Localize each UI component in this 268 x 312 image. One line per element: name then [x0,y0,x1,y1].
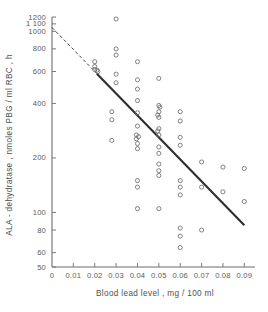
x-tick-label: 0.05 [151,271,167,280]
y-tick-label: 1200 [28,13,46,22]
data-point [135,147,139,151]
data-point [135,207,139,211]
data-point [114,72,118,76]
data-point [135,185,139,189]
data-point [114,81,118,85]
x-tick-label: 0.03 [108,271,124,280]
data-point [157,207,161,211]
x-tick-label: 0.01 [66,271,82,280]
data-point [135,124,139,128]
data-point [135,87,139,91]
regression-line-fitted [97,74,244,226]
data-point [93,60,97,64]
y-tick-label: 800 [33,44,46,53]
data-point [135,78,139,82]
x-tick-label: 0.07 [194,271,210,280]
y-tick-label: 100 [33,208,46,217]
y-tick-label: 80 [37,226,46,235]
axes [52,17,255,267]
y-tick-label: 200 [33,153,46,162]
y-tick-label: 400 [33,99,46,108]
data-point [242,199,246,203]
data-point [114,53,118,57]
x-tick-label: 0.04 [130,271,146,280]
data-point [135,142,139,146]
x-tick-label: 0.06 [172,271,188,280]
data-point [110,118,114,122]
y-tick-label: 50 [37,263,46,272]
x-tick-label: 0 [50,271,54,280]
scatter-plot: 50608010020040060080010001 1001200 00.01… [0,0,268,312]
x-axis-ticks: 00.010.020.030.040.050.060.070.080.09 [50,263,252,280]
x-tick-label: 0.09 [237,271,253,280]
data-point [157,151,161,155]
data-point [135,60,139,64]
data-point [135,179,139,183]
data-point [157,173,161,177]
data-point [200,160,204,164]
data-point [157,145,161,149]
data-point [157,169,161,173]
y-tick-label: 600 [33,67,46,76]
data-point [178,193,182,197]
data-point [200,185,204,189]
regression-line-group [52,28,244,226]
data-point [114,17,118,21]
data-point [178,234,182,238]
chart-figure: 50608010020040060080010001 1001200 00.01… [0,0,268,312]
data-points [93,17,247,250]
data-point [157,162,161,166]
data-point [242,166,246,170]
data-point [221,165,225,169]
data-point [178,185,182,189]
data-point [135,98,139,102]
data-point [221,190,225,194]
data-point [157,76,161,80]
data-point [178,119,182,123]
data-point [178,246,182,250]
x-axis-title: Blood lead level , mg / 100 ml [96,289,214,298]
y-tick-label: 60 [37,248,46,257]
data-point [110,138,114,142]
data-point [178,226,182,230]
data-point [178,143,182,147]
data-point [178,135,182,139]
data-point [114,47,118,51]
regression-line-extrapolated [52,28,97,74]
x-tick-label: 0.02 [87,271,103,280]
data-point [200,228,204,232]
data-point [110,110,114,114]
y-axis-title: ALA - dehydratase , nmoles PBG / ml RBC … [5,54,14,236]
x-tick-label: 0.08 [215,271,231,280]
data-point [178,110,182,114]
data-point [178,179,182,183]
